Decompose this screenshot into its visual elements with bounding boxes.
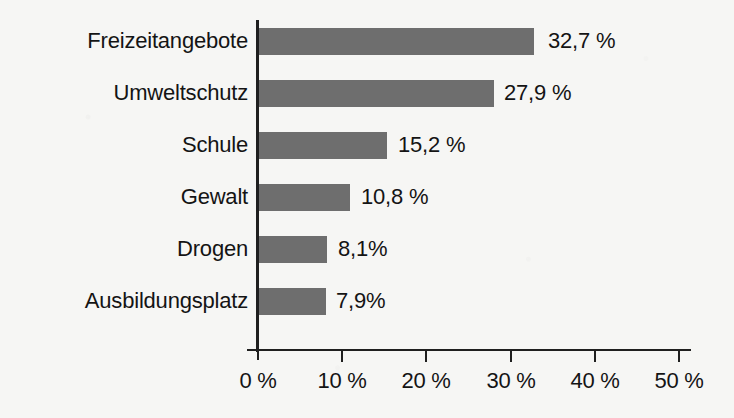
bar-2 <box>259 132 387 159</box>
category-label-4: Drogen <box>177 238 248 260</box>
x-tick-10 <box>341 351 343 362</box>
value-label-1: 27,9 % <box>504 82 571 104</box>
value-label-5: 7,9% <box>336 290 385 312</box>
bar-5 <box>259 288 326 315</box>
x-tick-label-4: 40 % <box>550 370 640 392</box>
bar-0 <box>259 28 534 55</box>
paper-texture-overlay <box>0 0 734 418</box>
bar-3 <box>259 184 350 211</box>
x-tick-50 <box>678 351 680 362</box>
value-label-0: 32,7 % <box>548 30 615 52</box>
x-tick-label-3: 30 % <box>466 370 556 392</box>
value-label-4: 8,1% <box>338 238 387 260</box>
x-tick-label-5: 50 % <box>634 370 724 392</box>
value-label-2: 15,2 % <box>398 134 465 156</box>
x-tick-40 <box>594 351 596 362</box>
category-label-5: Ausbildungsplatz <box>85 290 248 312</box>
category-label-2: Schule <box>182 134 248 156</box>
value-label-3: 10,8 % <box>361 186 428 208</box>
x-tick-0 <box>257 341 259 360</box>
x-tick-30 <box>510 351 512 362</box>
category-label-3: Gewalt <box>181 186 248 208</box>
x-tick-label-2: 20 % <box>381 370 471 392</box>
bar-chart: Freizeitangebote Umweltschutz Schule Gew… <box>0 0 734 418</box>
x-tick-label-1: 10 % <box>297 370 387 392</box>
x-tick-20 <box>425 351 427 362</box>
bar-1 <box>259 80 494 107</box>
y-axis-line <box>256 20 259 352</box>
category-label-1: Umweltschutz <box>113 82 248 104</box>
x-axis-line <box>247 349 691 351</box>
bar-4 <box>259 236 327 263</box>
x-tick-label-0: 0 % <box>213 370 303 392</box>
category-label-0: Freizeitangebote <box>87 30 248 52</box>
